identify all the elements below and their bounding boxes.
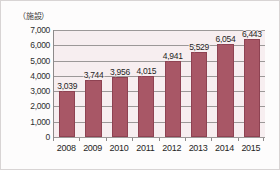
table-row[interactable] — [217, 44, 233, 137]
x-axis: 2008 2009 2010 2011 2012 2013 2014 2015 — [53, 138, 264, 160]
x-tick-label: 2011 — [136, 143, 154, 153]
bars-layer: 3,039 3,744 3,956 4,015 4,941 5,529 — [54, 30, 265, 137]
x-slot: 2008 — [53, 138, 79, 160]
bar-value-label: 6,054 — [216, 34, 236, 44]
y-tick-label-0: 0 — [46, 132, 50, 142]
x-slot: 2015 — [238, 138, 264, 160]
table-row[interactable] — [165, 61, 181, 137]
x-tick-label: 2015 — [241, 143, 260, 153]
x-tick-mark — [53, 138, 54, 141]
x-tick-label: 2014 — [215, 143, 234, 153]
y-tick-label-4000: 4,000 — [30, 71, 50, 81]
x-tick-label: 2013 — [189, 143, 208, 153]
x-tick-mark — [185, 138, 186, 141]
plot-area: 7,000 6,000 5,000 4,000 3,000 2,000 1,00… — [53, 30, 265, 138]
table-row[interactable] — [59, 91, 75, 137]
x-tick-label: 2012 — [162, 143, 181, 153]
bar-value-label: 4,941 — [163, 51, 183, 61]
x-tick-label: 2010 — [110, 143, 129, 153]
bar-slot: 4,941 — [160, 30, 186, 137]
table-row[interactable] — [244, 39, 260, 137]
x-tick-mark — [211, 138, 212, 141]
y-tick-label-7000: 7,000 — [30, 25, 50, 35]
table-row[interactable] — [191, 52, 207, 137]
x-slot: 2010 — [106, 138, 132, 160]
x-tick-mark — [106, 138, 107, 141]
y-axis-unit-label: （施設） — [18, 10, 49, 21]
bar-value-label: 3,744 — [84, 70, 104, 80]
table-row[interactable] — [138, 76, 154, 137]
bar-value-label: 6,443 — [242, 29, 262, 39]
bar-slot: 4,015 — [133, 30, 159, 137]
y-tick-label-1000: 1,000 — [30, 117, 50, 127]
y-tick-label-5000: 5,000 — [30, 56, 50, 66]
table-row[interactable] — [85, 80, 101, 137]
bar-slot: 3,744 — [80, 30, 106, 137]
x-tick-label: 2009 — [83, 143, 102, 153]
y-tick-label-3000: 3,000 — [30, 86, 50, 96]
bar-slot: 6,443 — [239, 30, 265, 137]
y-tick-label-2000: 2,000 — [30, 101, 50, 111]
x-tick-mark — [238, 138, 239, 141]
x-tick-mark — [159, 138, 160, 141]
x-slot: 2009 — [79, 138, 105, 160]
bar-slot: 3,956 — [107, 30, 133, 137]
y-tick-label-6000: 6,000 — [30, 40, 50, 50]
bar-slot: 3,039 — [54, 30, 80, 137]
x-tick-mark — [79, 138, 80, 141]
bar-value-label: 3,956 — [110, 67, 130, 77]
bar-value-label: 3,039 — [57, 81, 77, 91]
x-tick-mark — [132, 138, 133, 141]
bar-slot: 6,054 — [212, 30, 238, 137]
x-slot: 2014 — [211, 138, 237, 160]
x-slot: 2012 — [159, 138, 185, 160]
x-slot: 2011 — [132, 138, 158, 160]
bar-value-label: 4,015 — [136, 66, 156, 76]
bar-value-label: 5,529 — [189, 42, 209, 52]
x-tick-label: 2008 — [57, 143, 76, 153]
bar-chart-figure: （施設） 7,000 6,000 5,000 4,000 3,000 2,000… — [0, 0, 280, 170]
table-row[interactable] — [112, 77, 128, 137]
x-slot: 2013 — [185, 138, 211, 160]
x-tick-mark — [263, 138, 264, 141]
bar-slot: 5,529 — [186, 30, 212, 137]
